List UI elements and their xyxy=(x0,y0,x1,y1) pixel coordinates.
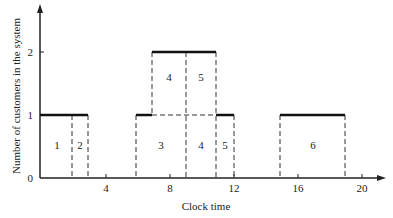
x-axis-label: Clock time xyxy=(182,200,231,212)
x-ticks: 4 8 12 16 20 xyxy=(103,174,368,194)
y-tick-2: 2 xyxy=(28,46,34,58)
block-label-6: 6 xyxy=(310,139,316,151)
y-tick-0: 0 xyxy=(28,172,34,184)
x-tick-4: 4 xyxy=(103,182,109,194)
x-tick-20: 20 xyxy=(357,182,369,194)
customer-block-labels: 1 2 3 4 4 5 5 6 xyxy=(54,71,316,151)
y-tick-1: 1 xyxy=(28,109,34,121)
customer-count-steps xyxy=(40,52,345,115)
y-axis-label: Number of customers in the system xyxy=(10,18,22,175)
block-label-1: 1 xyxy=(54,139,60,151)
x-axis-arrow-icon xyxy=(377,175,386,181)
y-axis-arrow-icon xyxy=(37,4,43,13)
block-label-5-upper: 5 xyxy=(198,71,204,83)
block-label-5-lower: 5 xyxy=(222,139,228,151)
x-tick-8: 8 xyxy=(167,182,173,194)
step-chart: 0 1 2 4 8 12 16 20 Clock time Number of … xyxy=(0,0,393,218)
block-label-3: 3 xyxy=(158,139,164,151)
block-label-2: 2 xyxy=(77,139,83,151)
x-tick-16: 16 xyxy=(293,182,305,194)
block-label-4-lower: 4 xyxy=(198,139,204,151)
block-label-4-upper: 4 xyxy=(166,71,172,83)
x-tick-12: 12 xyxy=(229,182,240,194)
